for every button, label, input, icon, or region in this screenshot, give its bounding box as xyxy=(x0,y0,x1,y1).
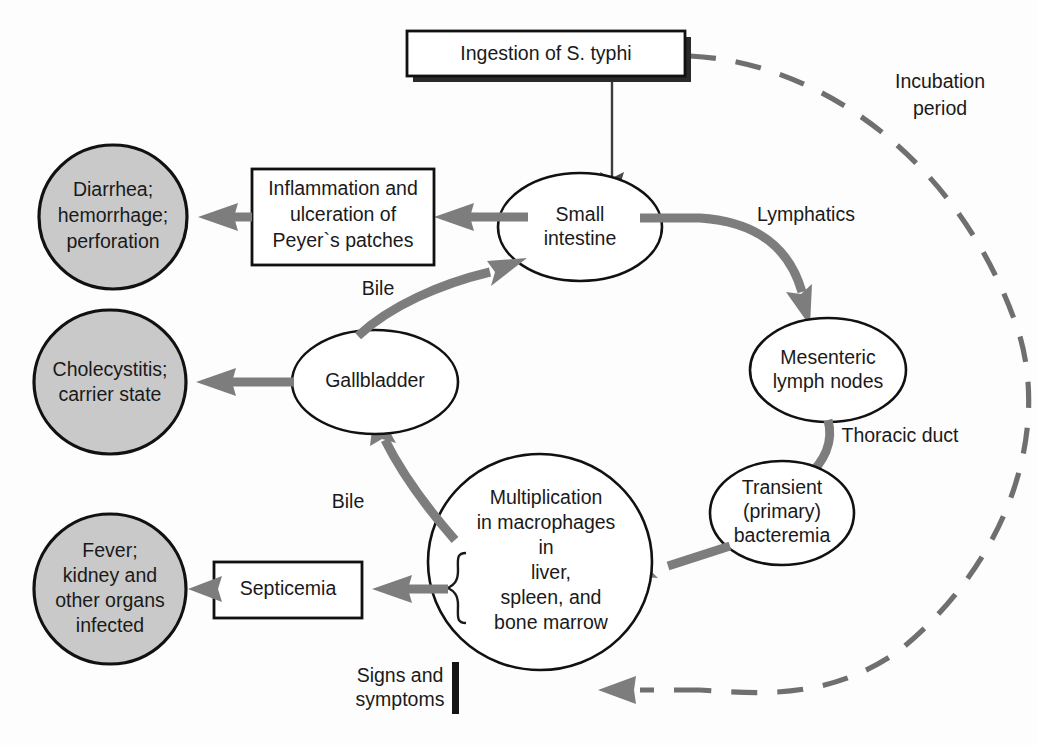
gallbladder-to-cholecystitis-arrow-head xyxy=(196,368,236,396)
edge-gallbladder-to-cholecystitis xyxy=(196,368,294,396)
node-ingestion[interactable]: Ingestion of S. typhi xyxy=(407,31,691,82)
edge-intestine-to-mesenteric xyxy=(640,218,812,326)
ingestion-label-species: S. typhi xyxy=(567,42,632,64)
bile-lower-curve xyxy=(385,440,455,540)
inflammation-label-line2: ulceration of xyxy=(290,203,397,225)
ingestion-label-prefix: Ingestion of xyxy=(460,42,566,64)
septicemia-to-fever-arrow-head xyxy=(188,576,222,602)
bile-upper-arrow-head xyxy=(487,258,527,286)
fever-label-line3: other organs xyxy=(55,589,165,611)
mesenteric-label-line2: lymph nodes xyxy=(773,370,884,392)
inflammation-to-diarrhea-arrow-head xyxy=(198,203,238,231)
lymphatics-curve xyxy=(640,218,802,292)
bile-lower-label: Bile xyxy=(332,490,365,512)
multiplication-label-line5: spleen, and xyxy=(501,586,602,608)
node-fever-outcome[interactable]: Fever; kidney and other organs infected xyxy=(34,514,186,664)
bile-upper-label: Bile xyxy=(362,277,395,299)
incubation-period-label-line2: period xyxy=(913,97,967,119)
node-small-intestine[interactable]: Small intestine xyxy=(498,173,662,281)
signs-label-line1: Signs and xyxy=(357,664,444,686)
diarrhea-label-line1: Diarrhea; xyxy=(73,178,153,200)
lymphatics-label: Lymphatics xyxy=(757,203,855,225)
cholecystitis-label-line1: Cholecystitis; xyxy=(53,358,168,380)
transient-to-multiplication-line xyxy=(668,546,730,566)
transient-label-line1: Transient xyxy=(742,476,823,498)
node-mesenteric-lymph-nodes[interactable]: Mesenteric lymph nodes xyxy=(750,318,906,422)
intestine-to-inflammation-arrow-head xyxy=(434,203,474,231)
cholecystitis-label-line2: carrier state xyxy=(59,383,162,405)
node-multiplication[interactable]: Multiplication in macrophages in liver, … xyxy=(428,454,652,670)
node-inflammation[interactable]: Inflammation and ulceration of Peyer`s p… xyxy=(252,169,434,265)
diarrhea-label-line2: hemorrhage; xyxy=(58,204,169,226)
incubation-period-label-line1: Incubation xyxy=(895,70,985,92)
edge-inflammation-to-diarrhea xyxy=(198,203,252,231)
ingestion-label: Ingestion of S. typhi xyxy=(460,42,631,64)
multiplication-to-septicemia-arrow-head xyxy=(372,575,412,603)
mesenteric-label-line1: Mesenteric xyxy=(780,346,876,368)
fever-label-line2: kidney and xyxy=(63,564,157,586)
gallbladder-label: Gallbladder xyxy=(325,369,425,391)
inflammation-label-line1: Inflammation and xyxy=(268,177,418,199)
diagram-canvas: Incubation period Ingestion of S. typhi … xyxy=(0,0,1037,745)
multiplication-label-line3: in xyxy=(538,536,553,558)
diarrhea-label-line3: perforation xyxy=(66,230,159,252)
multiplication-label-line4: liver, xyxy=(531,561,571,583)
node-cholecystitis-outcome[interactable]: Cholecystitis; carrier state xyxy=(34,310,186,454)
cholecystitis-circle xyxy=(34,310,186,454)
inflammation-label-line3: Peyer`s patches xyxy=(273,229,414,251)
edge-septicemia-to-fever xyxy=(188,576,222,602)
transient-label-line3: bacteremia xyxy=(734,524,831,546)
fever-label-line1: Fever; xyxy=(82,539,137,561)
node-transient-bacteremia[interactable]: Transient (primary) bacteremia xyxy=(710,461,854,565)
multiplication-label-line1: Multiplication xyxy=(490,486,603,508)
typhoid-pathogenesis-diagram: Incubation period Ingestion of S. typhi … xyxy=(0,0,1037,745)
small-intestine-label-line2: intestine xyxy=(544,227,617,249)
signs-label-line2: symptoms xyxy=(356,688,445,710)
small-intestine-label-line1: Small xyxy=(556,203,605,225)
node-diarrhea-outcome[interactable]: Diarrhea; hemorrhage; perforation xyxy=(39,145,187,289)
fever-label-line4: infected xyxy=(76,614,144,636)
incubation-arrow-head xyxy=(598,676,636,704)
node-septicemia[interactable]: Septicemia xyxy=(214,562,362,618)
node-gallbladder[interactable]: Gallbladder xyxy=(292,330,458,434)
multiplication-label-line2: in macrophages xyxy=(477,511,616,533)
signs-vertical-bar xyxy=(452,662,459,714)
thoracic-duct-label: Thoracic duct xyxy=(841,424,959,446)
transient-label-line2: (primary) xyxy=(743,500,821,522)
node-signs-and-symptoms[interactable]: Signs and symptoms xyxy=(356,662,459,714)
multiplication-label-line6: bone marrow xyxy=(494,611,609,633)
septicemia-label: Septicemia xyxy=(240,577,337,599)
